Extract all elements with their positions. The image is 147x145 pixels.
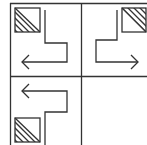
cell-top-left <box>5 2 67 69</box>
tile-grid-diagram <box>0 0 147 145</box>
hatched-square-icon <box>108 0 147 40</box>
cell-bottom-left <box>5 84 67 145</box>
cell-top-right <box>96 0 147 69</box>
